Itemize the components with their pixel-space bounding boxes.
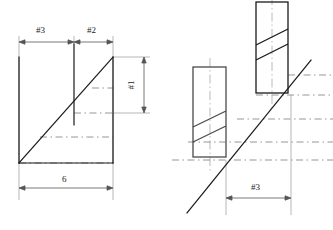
cad-vector-layer	[0, 0, 333, 230]
dimension-label-hash1-right: #1	[126, 81, 136, 90]
dimension-line-hash1-right	[142, 57, 146, 113]
dimension-line-hash3-top	[19, 40, 74, 44]
dim-hash1-arrow-bottom	[142, 107, 146, 113]
right-view-extension-lines	[226, 95, 291, 215]
left-view-object-outline	[19, 44, 113, 163]
small-prism-outline	[193, 67, 226, 157]
small-prism-section-line-2	[193, 126, 226, 142]
small-prism-section-line-1	[193, 111, 226, 127]
small-prism-block	[193, 67, 226, 157]
dim-six-arrow-left	[19, 186, 25, 190]
technical-drawing-canvas: #3 #2 #1 6 #3	[0, 0, 333, 230]
dim-hash2-arrow-left	[74, 40, 80, 44]
dimension-label-hash3-top: #3	[36, 25, 45, 35]
dim-hash2-arrow-right	[107, 40, 113, 44]
dim-hash3b-arrow-left	[226, 196, 232, 200]
outline-ramp-diagonal	[19, 57, 113, 163]
dimension-label-six-bottom: 6	[62, 174, 67, 184]
left-view-extension-lines	[19, 36, 150, 200]
right-view-hidden-lines	[172, 75, 333, 160]
dimension-line-hash2-top	[74, 40, 113, 44]
left-view-hidden-lines	[19, 88, 113, 163]
dimension-label-hash2-top: #2	[87, 25, 96, 35]
dim-hash3b-arrow-right	[285, 196, 291, 200]
dimension-label-hash3-bottom: #3	[251, 182, 260, 192]
dim-six-arrow-right	[107, 186, 113, 190]
dimension-line-six-bottom	[19, 186, 113, 190]
left-view-group	[19, 36, 150, 200]
dimension-line-hash3-bottom	[226, 196, 291, 200]
dim-hash3-arrow-left	[19, 40, 25, 44]
dim-hash1-arrow-top	[142, 57, 146, 63]
